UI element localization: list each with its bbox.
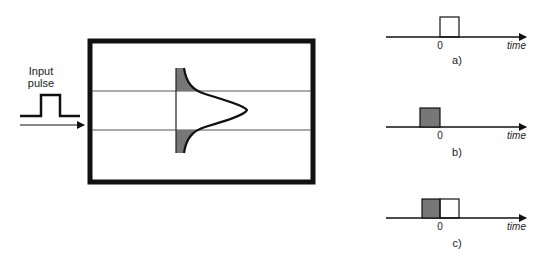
main-box-group: [90, 41, 313, 182]
time-label-a: time: [507, 40, 526, 51]
input-pulse-group: Input pulse: [20, 65, 84, 125]
input-label-line1: Input: [29, 65, 53, 77]
zero-label-a: 0: [437, 40, 443, 51]
diagram-canvas: Input pulse 0 time a) 0 time b) 0 time: [0, 0, 546, 258]
gaussian-profile-curve: [184, 68, 247, 153]
panel-c: 0 time c): [386, 199, 526, 249]
caption-c: c): [452, 237, 461, 249]
zero-label-c: 0: [437, 221, 443, 232]
input-pulse-waveform: [20, 95, 80, 116]
zero-label-b: 0: [437, 130, 443, 141]
caption-b: b): [452, 146, 462, 158]
pulse-b: [420, 108, 440, 127]
time-label-c: time: [507, 221, 526, 232]
pulse-c-open: [440, 199, 459, 218]
panel-b: 0 time b): [386, 108, 526, 158]
detector-frame: [90, 41, 313, 182]
pulse-a: [440, 17, 459, 37]
panel-a: 0 time a): [386, 17, 526, 66]
caption-a: a): [452, 54, 462, 66]
pulse-c-shaded: [422, 199, 440, 218]
input-label-line2: pulse: [28, 77, 54, 89]
time-label-b: time: [507, 130, 526, 141]
